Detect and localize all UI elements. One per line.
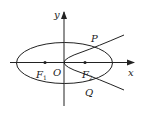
origin-label: O <box>53 67 61 78</box>
x-axis-label: x <box>128 67 134 78</box>
point-q-label: Q <box>85 87 93 98</box>
ellipse-parabola-diagram: y x O F 1 F 2 P Q <box>0 0 143 114</box>
point-p-label: P <box>90 33 98 44</box>
diagram-canvas: y x O F 1 F 2 P Q <box>0 0 143 114</box>
focus-f2-subscript: 2 <box>89 74 93 81</box>
focus-f1-dot <box>43 61 46 64</box>
focus-f1-subscript: 1 <box>43 74 47 81</box>
y-axis-label: y <box>53 9 60 20</box>
focus-f2-dot <box>83 61 86 64</box>
